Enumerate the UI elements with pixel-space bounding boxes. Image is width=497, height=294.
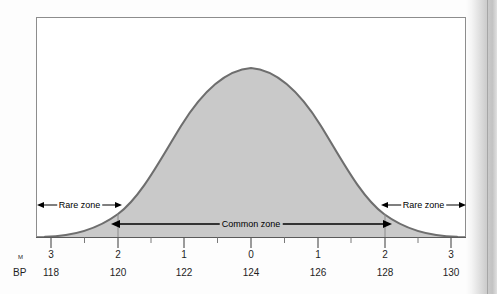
left-rare-zone-label: Rare zone [57, 200, 103, 211]
common-zone-label: Common zone [220, 219, 283, 230]
sd-tick-1: 2 [115, 248, 121, 262]
sd-row-label: M [18, 250, 23, 264]
right-rare-zone-label: Rare zone [401, 200, 447, 211]
bp-tick-5: 128 [377, 266, 394, 280]
distribution-area [45, 68, 457, 237]
bp-tick-6: 130 [443, 266, 460, 280]
sd-tick-5: 2 [382, 248, 388, 262]
sd-tick-row: M 3 2 1 0 1 2 3 [0, 248, 497, 262]
bp-tick-4: 126 [310, 266, 327, 280]
bp-tick-row: BP 118 120 122 124 126 128 130 [0, 266, 497, 280]
bp-tick-1: 120 [110, 266, 127, 280]
sd-tick-3: 0 [248, 248, 254, 262]
figure-root: Rare zone Rare zone Common zone M 3 2 1 … [0, 0, 497, 294]
bp-tick-2: 122 [176, 266, 193, 280]
sd-tick-6: 3 [448, 248, 454, 262]
sd-tick-4: 1 [315, 248, 321, 262]
major-ticks [51, 238, 451, 249]
bp-row-label: BP [13, 266, 26, 280]
bp-tick-0: 118 [43, 266, 59, 280]
sd-tick-2: 1 [181, 248, 187, 262]
sd-tick-0: 3 [48, 248, 54, 262]
bp-tick-3: 124 [243, 266, 260, 280]
